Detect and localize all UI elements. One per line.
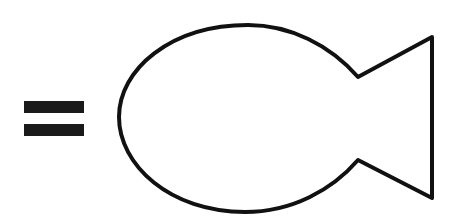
- fish-shape-canvas: [0, 0, 467, 219]
- fish-outline-icon: [119, 25, 432, 212]
